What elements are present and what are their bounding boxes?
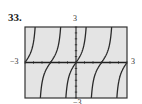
graph-plot [0, 0, 142, 104]
